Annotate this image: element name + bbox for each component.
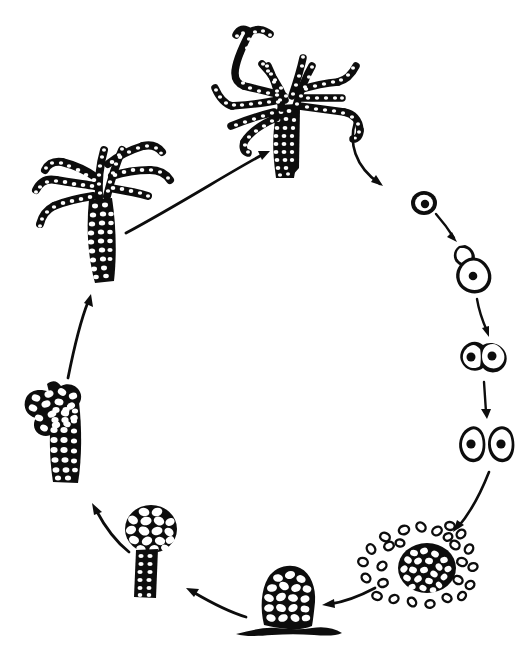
diagram-background [0, 0, 528, 646]
spore-nucleus [421, 200, 429, 208]
amoeba-nucleus-right [496, 439, 505, 448]
life-cycle-canvas [0, 0, 528, 646]
amoeba-nucleus [469, 272, 478, 281]
life-cycle-diagram: Life cycle of a cellular slime mould Dic… [0, 0, 528, 646]
amoeba-nucleus-left [466, 439, 475, 448]
stage-dividing-amoeba [460, 342, 506, 373]
daughter-nucleus-left [467, 353, 476, 362]
daughter-nucleus-right [488, 352, 497, 361]
stage-single-spore [411, 191, 437, 215]
